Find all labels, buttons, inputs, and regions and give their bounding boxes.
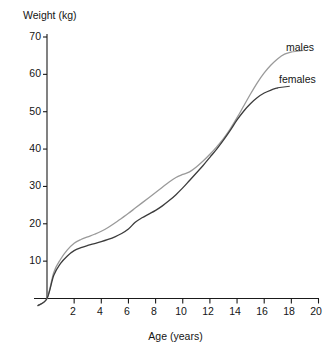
x-tick-label-18: 18 xyxy=(279,306,299,317)
x-tick-label-4: 4 xyxy=(90,306,110,317)
y-tick-label-40: 40 xyxy=(19,143,41,154)
series-line-males xyxy=(38,52,291,306)
y-tick-label-70: 70 xyxy=(19,31,41,42)
x-tick-label-10: 10 xyxy=(171,306,191,317)
y-tick-label-20: 20 xyxy=(19,218,41,229)
y-tick-label-30: 30 xyxy=(19,180,41,191)
chart-canvas xyxy=(0,0,335,357)
x-tick-label-2: 2 xyxy=(63,306,83,317)
x-tick-label-6: 6 xyxy=(117,306,137,317)
weight-vs-age-line-chart: Weight (kg) Age (years) 70 60 50 40 30 2… xyxy=(0,0,335,357)
y-tick-label-10: 10 xyxy=(19,255,41,266)
x-tick-label-14: 14 xyxy=(225,306,245,317)
y-tick-label-50: 50 xyxy=(19,106,41,117)
x-axis-ticks xyxy=(74,299,318,304)
x-axis-title: Age (years) xyxy=(8,331,335,342)
x-tick-label-20: 20 xyxy=(306,306,326,317)
axes-group xyxy=(34,34,319,299)
series-curves xyxy=(38,52,291,306)
y-axis-title: Weight (kg) xyxy=(23,10,77,21)
series-label-males: males xyxy=(286,42,314,53)
x-tick-label-8: 8 xyxy=(144,306,164,317)
x-tick-label-16: 16 xyxy=(252,306,272,317)
series-line-females xyxy=(38,88,278,306)
y-tick-label-60: 60 xyxy=(19,68,41,79)
x-tick-label-12: 12 xyxy=(198,306,218,317)
series-label-females: females xyxy=(279,74,316,85)
leader-line-females xyxy=(278,86,290,88)
y-axis-ticks xyxy=(43,37,47,261)
